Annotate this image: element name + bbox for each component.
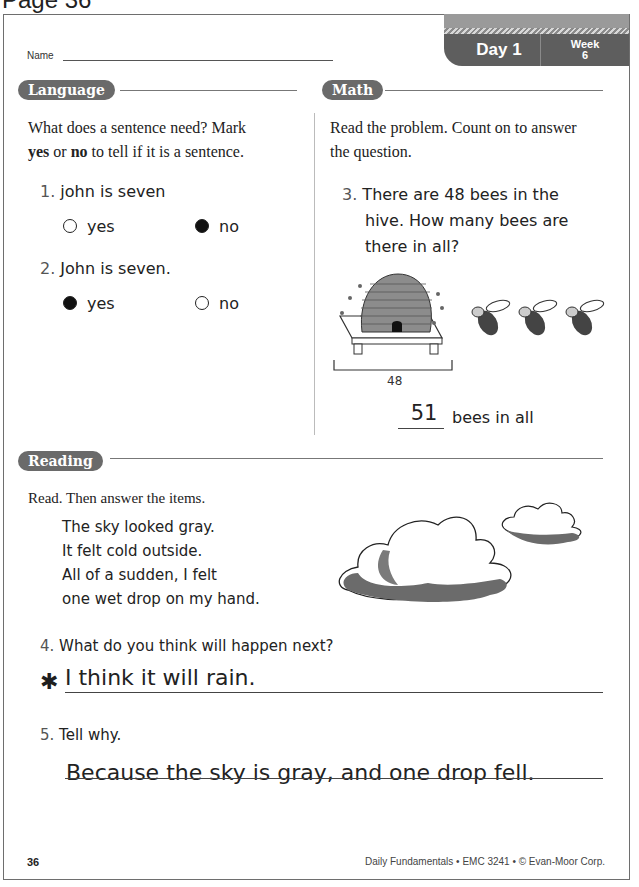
question-1: 1. john is seven: [40, 182, 165, 201]
section-title-math: Math: [322, 80, 383, 100]
clouds-illustration: [328, 495, 608, 615]
section-rule: [385, 90, 603, 91]
q1-option-yes[interactable]: yes: [63, 217, 115, 236]
reading-instructions: Read. Then answer the items.: [28, 486, 205, 510]
footer-page-number: 36: [27, 856, 39, 868]
q2-option-yes[interactable]: yes: [63, 294, 115, 313]
bee-icon: [472, 298, 511, 339]
radio-filled-icon[interactable]: [63, 296, 77, 310]
section-rule: [120, 90, 297, 91]
section-title-reading: Reading: [18, 451, 103, 471]
radio-empty-icon[interactable]: [63, 219, 77, 233]
answer-5[interactable]: Because the sky is gray, and one drop fe…: [66, 760, 535, 785]
q1-option-no[interactable]: no: [195, 217, 239, 236]
language-instructions: What does a sentence need? Mark yes or n…: [28, 116, 308, 164]
math-answer[interactable]: 51: [400, 401, 448, 425]
reading-passage: The sky looked gray. It felt cold outsid…: [62, 515, 260, 611]
math-answer-line: [398, 428, 444, 429]
page-heading: Page 36: [2, 0, 91, 14]
bee-icon: [566, 298, 605, 339]
name-input-line[interactable]: [63, 60, 333, 61]
q2-option-no[interactable]: no: [195, 294, 239, 313]
day-week-tab: Day 1 Week 6: [444, 14, 629, 66]
week-number: 6: [582, 50, 588, 61]
answer-4[interactable]: I think it will rain.: [65, 665, 255, 690]
week-badge: Week 6: [541, 34, 629, 66]
footer-credit: Daily Fundamentals • EMC 3241 • © Evan-M…: [365, 856, 605, 867]
beehive-illustration: [330, 268, 610, 388]
answer-5-line: [65, 778, 603, 779]
cloud-large-icon: [339, 517, 511, 602]
answer-4-line: [65, 692, 603, 693]
asterisk-icon: ✱: [40, 669, 58, 694]
column-divider: [314, 113, 315, 435]
cloud-small-icon: [502, 503, 581, 544]
section-rule: [110, 458, 603, 459]
name-label: Name: [27, 50, 54, 61]
math-instructions: Read the problem. Count on to answer the…: [330, 116, 600, 164]
question-5: 5. Tell why.: [40, 726, 121, 744]
question-2: 2. John is seven.: [40, 259, 171, 278]
math-answer-suffix: bees in all: [452, 408, 534, 427]
section-title-language: Language: [18, 80, 115, 100]
day-label: Day 1: [444, 34, 541, 66]
radio-filled-icon[interactable]: [195, 219, 209, 233]
bee-icon: [519, 298, 558, 339]
bracket-label: 48: [387, 374, 402, 388]
question-4: 4. What do you think will happen next?: [40, 637, 334, 655]
question-3: 3. There are 48 bees in the hive. How ma…: [342, 182, 568, 260]
radio-empty-icon[interactable]: [195, 296, 209, 310]
